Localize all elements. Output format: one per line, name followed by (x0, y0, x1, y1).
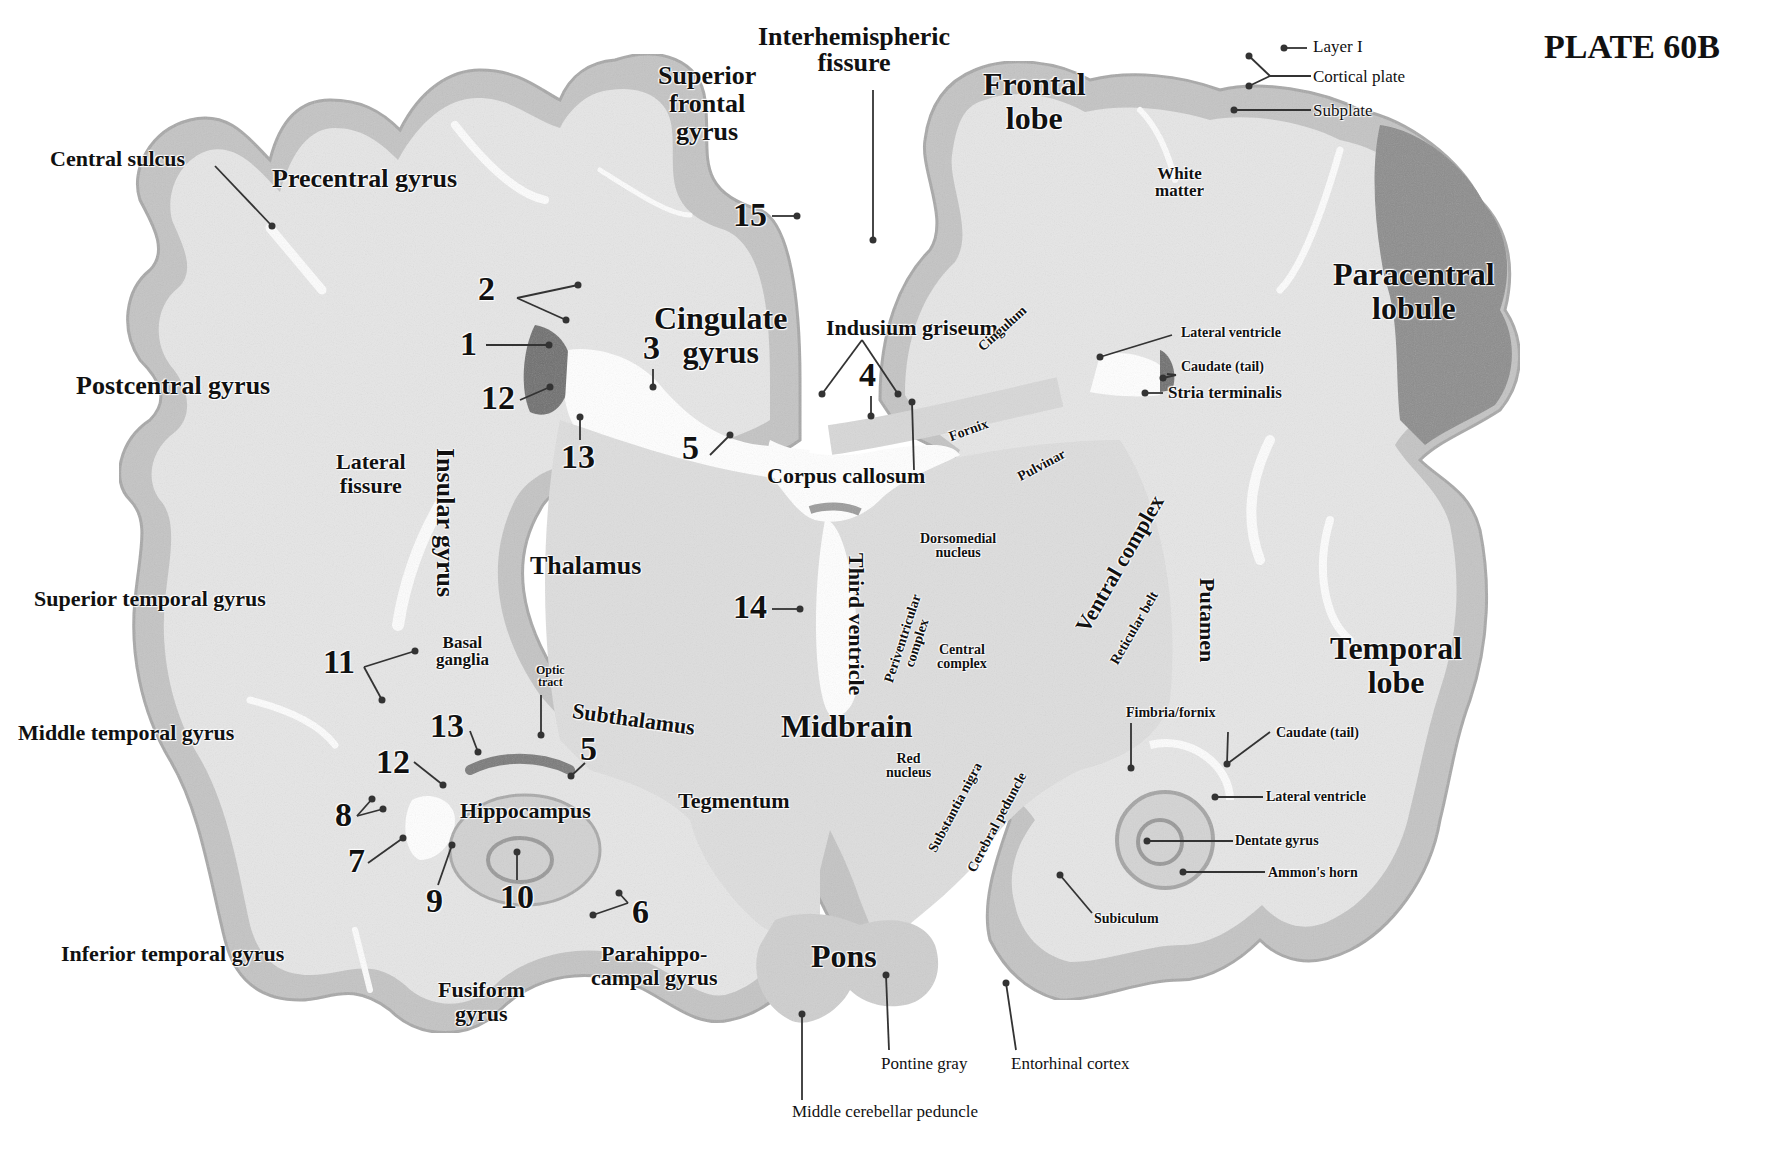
label-frontal-line2: lobe (983, 102, 1086, 136)
dot-cortical-plate-b (1246, 83, 1253, 90)
dot-13a (577, 414, 584, 421)
label-indusium-griseum: Indusium griseum (826, 317, 998, 339)
marker-15: 15 (733, 198, 767, 232)
marker-1: 1 (460, 327, 477, 361)
label-interhemispheric-fissure: Interhemispheric fissure (758, 24, 950, 76)
label-paracentral-lobule: Paracentral lobule (1333, 258, 1495, 325)
marker-4: 4 (859, 358, 876, 392)
label-putamen: Putamen (1196, 578, 1218, 662)
label-paracentral-line2: lobule (1333, 292, 1495, 326)
dot-ammons-horn (1180, 869, 1187, 876)
leader-caudate-tail-bottom (1227, 732, 1228, 764)
label-temporal-line1: Temporal (1330, 632, 1462, 666)
label-parahippo-line2: campal gyrus (591, 966, 718, 990)
leader-indusium-a (822, 340, 862, 394)
dot-corpus-callosum (909, 399, 916, 406)
dot-indusium-b (895, 391, 902, 398)
marker-7: 7 (348, 844, 365, 878)
label-central-complex-line2: complex (937, 657, 987, 671)
label-fimbria-fornix: Fimbria/fornix (1126, 706, 1215, 720)
label-basal-ganglia-line2: ganglia (436, 651, 489, 668)
dot-15 (794, 213, 801, 220)
dot-12a (547, 384, 554, 391)
label-basal-ganglia-line1: Basal (436, 634, 489, 651)
dot-fimbria-fornix (1128, 765, 1135, 772)
label-ammons-horn: Ammon's horn (1268, 866, 1358, 880)
label-pontine-gray: Pontine gray (881, 1055, 967, 1072)
dot-caudate-tail-top (1160, 375, 1167, 382)
dot-11a (412, 648, 419, 655)
label-lateral-ventricle-bottom: Lateral ventricle (1266, 790, 1366, 804)
dot-entorhinal-cortex (1003, 980, 1010, 987)
marker-9: 9 (426, 884, 443, 918)
label-white-matter: White matter (1155, 165, 1204, 199)
marker-8: 8 (335, 798, 352, 832)
dot-subplate (1231, 107, 1238, 114)
label-sfg-line1: Superior (658, 62, 756, 90)
leader-entorhinal-cortex (1006, 983, 1016, 1050)
label-middle-cerebellar-peduncle: Middle cerebellar peduncle (792, 1103, 978, 1120)
plate-title: PLATE 60B (1544, 30, 1720, 64)
label-temporal-lobe: Temporal lobe (1330, 632, 1462, 699)
dot-cortical-plate-a (1246, 53, 1253, 60)
label-dentate-gyrus: Dentate gyrus (1235, 834, 1319, 848)
label-dorsomedial-line2: nucleus (920, 546, 996, 560)
dot-3 (650, 384, 657, 391)
marker-13b: 13 (430, 709, 464, 743)
label-subiculum: Subiculum (1094, 912, 1159, 926)
dot-interhemispheric (870, 237, 877, 244)
label-frontal-lobe: Frontal lobe (983, 68, 1086, 135)
dot-7 (400, 835, 407, 842)
label-middle-temporal-gyrus: Middle temporal gyrus (18, 722, 234, 744)
label-corpus-callosum: Corpus callosum (767, 465, 925, 487)
dot-5a (727, 432, 734, 439)
label-frontal-line1: Frontal (983, 68, 1086, 102)
label-superior-temporal-gyrus: Superior temporal gyrus (34, 588, 266, 610)
label-lateral-ventricle-top: Lateral ventricle (1181, 326, 1281, 340)
label-fusiform-line2: gyrus (438, 1002, 525, 1026)
label-sfg-line3: gyrus (658, 118, 756, 146)
dot-5b (568, 773, 575, 780)
coronal-brain-section-illustration (0, 0, 1770, 1149)
dot-lateral-ventricle-bottom (1212, 794, 1219, 801)
label-optic-tract: Optic tract (536, 664, 565, 688)
label-tegmentum: Tegmentum (678, 790, 790, 812)
label-pons: Pons (811, 940, 877, 972)
right-hippocampus-shape (1117, 792, 1213, 888)
marker-3: 3 (643, 331, 660, 365)
marker-6: 6 (632, 895, 649, 929)
label-insular-gyrus: Insular gyrus (432, 448, 458, 597)
dot-subiculum (1057, 872, 1064, 879)
label-postcentral-gyrus: Postcentral gyrus (76, 373, 270, 399)
label-temporal-line2: lobe (1330, 666, 1462, 700)
dot-6a (616, 890, 623, 897)
dot-8b (380, 806, 387, 813)
label-interhemispheric-line1: Interhemispheric (758, 24, 950, 50)
dot-stria-terminalis (1142, 390, 1149, 397)
label-inferior-temporal-gyrus: Inferior temporal gyrus (61, 943, 284, 965)
label-superior-frontal-gyrus: Superior frontal gyrus (658, 62, 756, 146)
marker-5a: 5 (682, 431, 699, 465)
label-optic-tract-line2: tract (536, 676, 565, 688)
label-subplate: Subplate (1313, 102, 1373, 119)
label-parahippo-line1: Parahippo- (591, 942, 718, 966)
label-midbrain: Midbrain (781, 710, 913, 742)
label-thalamus: Thalamus (530, 553, 641, 579)
dot-11b (379, 697, 386, 704)
label-parahippocampal-gyrus: Parahippo- campal gyrus (591, 942, 718, 990)
label-caudate-tail-top: Caudate (tail) (1181, 360, 1264, 374)
dot-12b (440, 782, 447, 789)
label-white-matter-line2: matter (1155, 182, 1204, 199)
dot-middle-cerebellar-peduncle (799, 1011, 806, 1018)
label-cingulate-gyrus: Cingulate gyrus (654, 302, 787, 369)
marker-2: 2 (478, 272, 495, 306)
label-cingulate-line2: gyrus (654, 336, 787, 370)
dot-lateral-ventricle-top (1097, 354, 1104, 361)
label-interhemispheric-line2: fissure (758, 50, 950, 76)
label-precentral-gyrus: Precentral gyrus (272, 166, 457, 192)
label-paracentral-line1: Paracentral (1333, 258, 1495, 292)
label-cortical-plate: Cortical plate (1313, 68, 1405, 85)
label-cingulate-line1: Cingulate (654, 302, 787, 336)
marker-5b: 5 (580, 732, 597, 766)
leader-cortical-plate-a (1249, 56, 1270, 76)
